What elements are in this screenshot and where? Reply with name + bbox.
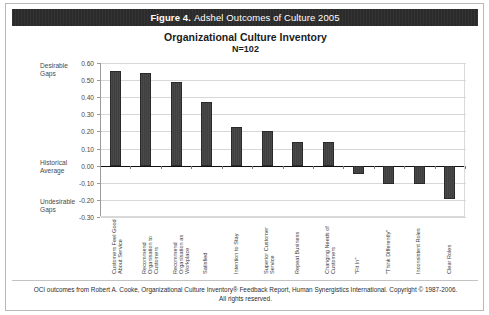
gridline — [101, 200, 466, 201]
x-axis-category-label: Recommend Organisation to Customers — [141, 212, 160, 274]
x-axis-category-label: Inconsistent Roles — [415, 212, 421, 274]
y-axis-tick-mark — [97, 166, 100, 167]
y-axis-tick-label: 0.20 — [64, 128, 94, 135]
gridline — [101, 131, 466, 132]
y-axis-tick-label: 0.10 — [64, 145, 94, 152]
desirable-gaps-label-line-2: Gaps — [40, 70, 92, 78]
x-axis-tick-mark — [374, 166, 375, 169]
x-axis-category-label: Satisfied — [202, 212, 208, 274]
chart-bar — [231, 127, 242, 166]
x-axis-category-label: Clear Roles — [446, 212, 452, 274]
x-axis-tick-mark — [313, 166, 314, 169]
historical-average-label-line-1: Historical — [40, 159, 92, 167]
y-axis-tick-mark — [97, 149, 100, 150]
desirable-gaps-label: DesirableGaps — [40, 62, 92, 78]
gridline — [101, 97, 466, 98]
y-axis-tick-mark — [97, 200, 100, 201]
chart-bar — [383, 166, 394, 185]
x-axis-tick-mark — [465, 166, 466, 169]
chart-bar — [353, 166, 364, 175]
x-axis-category-label: "Think Differently" — [385, 212, 391, 274]
gridline — [101, 183, 466, 184]
y-axis-tick-label: 0.40 — [64, 94, 94, 101]
x-axis-tick-mark — [130, 166, 131, 169]
x-axis-category-label: Customers Feel Good About Service — [111, 212, 123, 274]
gridline — [101, 149, 466, 150]
x-axis-category-label: Repeat Business — [294, 212, 300, 274]
footer-note: OCI outcomes from Robert A. Cooke, Organ… — [18, 285, 473, 303]
y-axis-tick-mark — [97, 114, 100, 115]
y-axis-tick-mark — [97, 80, 100, 81]
chart-bar — [140, 73, 151, 165]
chart-bar — [262, 131, 273, 165]
footer-divider — [12, 280, 478, 281]
undesirable-gaps-label-line-2: Gaps — [40, 206, 92, 214]
x-axis-category-label: Superior Customer Service — [263, 212, 275, 274]
y-axis-tick-label: 0.30 — [64, 111, 94, 118]
x-axis-category-label: "Fit In" — [354, 212, 360, 274]
footer-line-1: OCI outcomes from Robert A. Cooke, Organ… — [18, 285, 473, 294]
x-axis-tick-mark — [161, 166, 162, 169]
x-axis-category-label: Changing Needs of Customers — [324, 212, 336, 274]
x-axis-category-label: Recommend Organisation as Workplace — [172, 212, 191, 274]
chart-bar — [323, 142, 334, 166]
y-axis-tick-mark — [97, 183, 100, 184]
chart-bar — [444, 166, 455, 199]
y-axis-tick-mark — [97, 63, 100, 64]
y-axis-tick-label: 0.50 — [64, 77, 94, 84]
x-axis-tick-mark — [222, 166, 223, 169]
chart-plot: 0.600.500.400.300.200.100.00-0.10-0.20-0… — [6, 4, 485, 312]
x-axis-tick-mark — [435, 166, 436, 169]
x-axis-tick-mark — [283, 166, 284, 169]
chart-bar — [414, 166, 425, 185]
gridline — [101, 80, 466, 81]
chart-bar — [292, 142, 303, 166]
desirable-gaps-label-line-1: Desirable — [40, 62, 92, 70]
footer-line-2: All rights reserved. — [18, 294, 473, 303]
x-axis-tick-mark — [252, 166, 253, 169]
y-axis-tick-mark — [97, 217, 100, 218]
y-axis-tick-label: -0.10 — [64, 179, 94, 186]
x-axis-tick-mark — [404, 166, 405, 169]
undesirable-gaps-label-line-1: Undesirable — [40, 198, 92, 206]
x-axis-tick-mark — [191, 166, 192, 169]
y-axis-tick-mark — [97, 97, 100, 98]
gridline — [101, 63, 466, 64]
historical-average-label: HistoricalAverage — [40, 159, 92, 175]
y-axis-tick-mark — [97, 131, 100, 132]
y-axis-tick-label: -0.30 — [64, 214, 94, 221]
zero-baseline — [101, 166, 466, 168]
plot-area — [100, 63, 465, 217]
chart-bar — [201, 102, 212, 166]
historical-average-label-line-2: Average — [40, 167, 92, 175]
figure-card: Figure 4. Adshel Outcomes of Culture 200… — [5, 3, 484, 311]
gridline — [101, 114, 466, 115]
chart-bar — [110, 71, 121, 166]
undesirable-gaps-label: UndesirableGaps — [40, 198, 92, 214]
chart-bar — [171, 82, 182, 166]
x-axis-tick-mark — [343, 166, 344, 169]
x-axis-category-label: Intention to Stay — [233, 212, 239, 274]
